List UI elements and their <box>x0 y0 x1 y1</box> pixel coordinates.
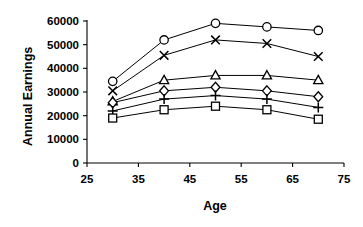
data-point-square <box>314 115 322 123</box>
y-axis-title: Annual Earnings <box>21 47 35 146</box>
y-axis-tick-labels: 0100002000030000400005000060000 <box>47 15 79 169</box>
x-tick-label: 25 <box>81 173 94 185</box>
data-point-plus <box>313 102 323 112</box>
x-axis-tick-labels: 253545556575 <box>81 173 351 185</box>
x-tick-label: 65 <box>286 173 299 185</box>
x-tick-label: 35 <box>132 173 145 185</box>
data-point-square <box>160 106 168 114</box>
chart-series-layer <box>108 19 324 123</box>
y-tick-label: 40000 <box>47 62 79 74</box>
y-tick-label: 10000 <box>47 133 79 145</box>
y-tick-label: 30000 <box>47 86 79 98</box>
y-tick-label: 60000 <box>47 15 79 27</box>
x-axis-title: Age <box>203 199 227 213</box>
series-square <box>109 102 323 123</box>
data-point-triangle <box>262 71 271 79</box>
y-tick-label: 20000 <box>47 110 79 122</box>
x-tick-label: 45 <box>183 173 196 185</box>
data-point-x <box>108 87 117 96</box>
data-point-circle <box>314 26 322 34</box>
data-point-circle <box>160 36 168 44</box>
data-point-plus <box>159 94 169 104</box>
data-point-circle <box>211 19 219 27</box>
data-point-square <box>212 102 220 110</box>
data-point-circle <box>109 77 117 85</box>
data-point-square <box>109 114 117 122</box>
line-chart: Annual Earnings Age 01000020000300004000… <box>0 0 363 227</box>
data-point-triangle <box>211 71 220 79</box>
data-point-x <box>314 52 323 61</box>
data-point-plus <box>262 94 272 104</box>
x-tick-label: 75 <box>338 173 351 185</box>
x-tick-label: 55 <box>235 173 248 185</box>
data-point-x <box>160 51 169 60</box>
chart-container: Annual Earnings Age 01000020000300004000… <box>0 0 363 227</box>
y-tick-label: 0 <box>73 157 79 169</box>
data-point-plus <box>211 91 221 101</box>
data-point-circle <box>263 23 271 31</box>
data-point-square <box>263 106 271 114</box>
y-tick-label: 50000 <box>47 39 79 51</box>
data-point-diamond <box>314 92 323 102</box>
